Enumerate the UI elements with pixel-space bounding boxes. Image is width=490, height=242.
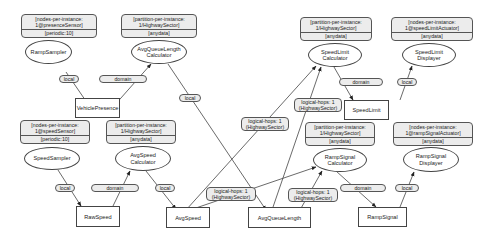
operator-avgspeed-calculator[interactable]: AvgSpeed Calculator	[115, 146, 171, 171]
operator-label: SpeedLimit Calculator	[321, 49, 349, 62]
edge-label-logical-hops: logical-hops: 1(HighwaySector)	[241, 117, 289, 131]
annotation-bottom: [anydata]	[301, 33, 371, 40]
annotation-avgqueue-calculator: [partition-per-instance:1/HighwaySector]…	[121, 14, 197, 38]
operator-rampsignal-calculator[interactable]: RampSignal Calculator	[313, 148, 367, 172]
operator-label: AvgSpeed Calculator	[130, 152, 156, 165]
edge-label-logical-hops: logical-hops: 1(HighwaySector)	[206, 187, 256, 201]
edge-label-domain: domain	[91, 184, 139, 192]
operator-speedlimit-displayer[interactable]: SpeedLimit Displayer	[402, 43, 456, 67]
data-vehicle-presence[interactable]: VehiclePresence	[75, 98, 120, 118]
operator-label: SpeedSampler	[33, 155, 70, 161]
data-raw-speed[interactable]: RawSpeed	[76, 206, 120, 227]
data-label: AvgQueueLength	[258, 215, 301, 221]
annotation-line: 1/HighwaySector]	[308, 130, 372, 136]
annotation-line: 1@presenceSensor]	[24, 22, 94, 28]
data-label: RawSpeed	[84, 214, 111, 220]
operator-speedlimit-calculator[interactable]: SpeedLimit Calculator	[308, 43, 362, 67]
annotation-line: 1@rampSignalActuator]	[396, 130, 470, 136]
annotation-speedlimit-calculator: [partition-per-instance:1/HighwaySector]…	[300, 17, 372, 41]
edge-label-domain: domain	[99, 75, 147, 83]
edge-label-text: domain	[114, 76, 131, 82]
edge-label-text: local	[185, 95, 196, 101]
annotation-bottom: [periodic:10]	[22, 30, 96, 37]
operator-ramp-sampler[interactable]: RampSampler	[25, 40, 72, 64]
annotation-ramp-sampler: [nodes-per-instance:1@presenceSensor] [p…	[21, 14, 97, 38]
annotation-line: 1/HighwaySector]	[303, 25, 369, 31]
annotation-speedlimit-displayer: [nodes-per-instance:1@speedLimitActuator…	[391, 17, 473, 41]
edge-label-local: local	[179, 94, 201, 102]
data-ramp-signal[interactable]: RampSignal	[358, 207, 407, 227]
data-label: RampSignal	[367, 214, 397, 220]
edge-label-text: local	[402, 79, 413, 85]
data-avg-speed[interactable]: AvgSpeed	[166, 207, 210, 228]
annotation-bottom: [anydata]	[392, 33, 472, 40]
operator-label: RampSignal Displayer	[416, 153, 446, 166]
data-label: AvgSpeed	[175, 215, 201, 221]
operator-label: RampSampler	[31, 49, 67, 55]
edge-label-text: domain	[352, 79, 369, 85]
edge-label-text: local	[64, 76, 75, 82]
edge-label-text: domain	[354, 185, 371, 191]
annotation-line: 1@speedSensor]	[23, 128, 87, 134]
edge-label-domain: domain	[340, 184, 386, 192]
data-avg-queue-length[interactable]: AvgQueueLength	[248, 207, 311, 228]
edge-label-local: local	[397, 78, 417, 86]
edge-label-local: local	[155, 184, 175, 192]
annotation-rampsignal-calculator: [partition-per-instance:1/HighwaySector]…	[305, 122, 375, 146]
annotation-bottom: [anydata]	[107, 136, 175, 143]
operator-speed-sampler[interactable]: SpeedSampler	[24, 147, 80, 170]
operator-rampsignal-displayer[interactable]: RampSignal Displayer	[403, 147, 459, 172]
data-label: VehiclePresence	[77, 105, 119, 111]
edge-label-text: domain	[106, 185, 123, 191]
edge-label-local: local	[395, 184, 419, 192]
edge-label-local: local	[55, 184, 75, 192]
edge-label-text: (HighwaySector)	[212, 194, 250, 200]
edge-label-logical-hops: logical-hops: 1(HighwaySector)	[294, 98, 342, 112]
edge-label-logical-hops: logical-hops: 1(HighwaySector)	[288, 188, 338, 202]
edge-label-local: local	[59, 75, 79, 83]
edge-label-text: (HighwaySector)	[246, 124, 284, 130]
annotation-bottom: [anydata]	[394, 138, 472, 145]
operator-avgqueue-calculator[interactable]: AvgQueueLength Calculator	[131, 40, 187, 64]
data-speed-limit[interactable]: SpeedLimit	[344, 100, 389, 120]
annotation-line: 1/HighwaySector]	[124, 22, 194, 28]
operator-label: SpeedLimit Displayer	[415, 49, 443, 62]
edge-label-domain: domain	[339, 78, 383, 86]
annotation-bottom: [anydata]	[306, 138, 374, 145]
annotation-line: 1@speedLimitActuator]	[394, 25, 470, 31]
annotation-rampsignal-displayer: [nodes-per-instance:1@rampSignalActuator…	[393, 122, 473, 146]
operator-label: AvgQueueLength Calculator	[137, 46, 180, 59]
annotation-bottom: [anydata]	[122, 30, 196, 37]
edge-label-text: local	[402, 185, 413, 191]
annotation-speed-sampler: [nodes-per-instance:1@speedSensor] [peri…	[20, 120, 90, 144]
annotation-bottom: [periodic:10]	[21, 136, 89, 143]
annotation-line: 1/HighwaySector]	[109, 128, 173, 134]
edge-label-text: local	[60, 185, 71, 191]
annotation-avgspeed-calculator: [partition-per-instance:1/HighwaySector]…	[106, 120, 176, 144]
operator-label: RampSignal Calculator	[325, 154, 355, 167]
data-label: SpeedLimit	[353, 107, 381, 113]
edge-label-text: local	[160, 185, 171, 191]
edge-label-text: (HighwaySector)	[294, 195, 332, 201]
edge-label-text: (HighwaySector)	[299, 105, 337, 111]
